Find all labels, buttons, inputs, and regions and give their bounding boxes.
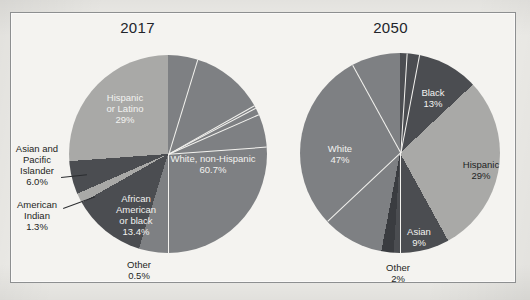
pie-slice-separator <box>168 154 169 253</box>
pie-label-other-2050: Other 2% <box>372 262 424 284</box>
chart-title-2050: 2050 <box>264 19 517 36</box>
pie-label-american-indian-2017: American Indian 1.3% <box>8 199 66 232</box>
pie-slice-separator <box>352 65 401 153</box>
pie-label-asian-pacific-islander-2017: Asian and Pacific Islander 6.0% <box>8 143 66 187</box>
figure-frame: 2017 White, non-Hispanic 60.7% Hispanic … <box>10 12 516 283</box>
chart-panel-2050: 2050 White 47% Black 13% Hispanic 29% As… <box>264 13 517 282</box>
pie-chart-2017 <box>69 55 267 253</box>
pie-slice-separator <box>327 152 401 221</box>
chart-panel-2017: 2017 White, non-Hispanic 60.7% Hispanic … <box>11 13 264 282</box>
pie-slice-separator <box>400 153 401 253</box>
pie-chart-2050 <box>300 53 500 253</box>
chart-title-2017: 2017 <box>11 19 264 36</box>
pie-label-other-2017: Other 0.5% <box>107 259 171 281</box>
